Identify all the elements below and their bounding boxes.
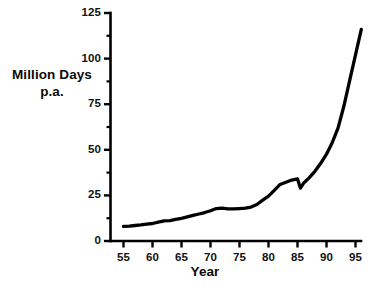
x-axis-tick-label: 60 bbox=[137, 252, 169, 264]
y-axis-title-line-1: Million Days bbox=[2, 66, 102, 83]
chart-plot-area bbox=[0, 0, 371, 291]
y-axis-tick-label: 0 bbox=[60, 235, 101, 247]
y-axis-tick-label: 125 bbox=[60, 7, 101, 19]
x-axis-tick-label: 65 bbox=[166, 252, 198, 264]
x-axis-tick-label: 85 bbox=[282, 252, 314, 264]
x-axis-tick-label: 75 bbox=[224, 252, 256, 264]
x-axis-tick-label: 80 bbox=[253, 252, 285, 264]
y-axis-tick-label: 50 bbox=[60, 144, 101, 156]
axes-group bbox=[111, 13, 362, 241]
x-axis-tick-label: 95 bbox=[340, 252, 371, 264]
data-series-line bbox=[124, 29, 362, 226]
y-axis-title-line-2: p.a. bbox=[2, 83, 102, 100]
y-axis-title: Million Days p.a. bbox=[2, 66, 102, 101]
x-axis-tick-label: 55 bbox=[108, 252, 140, 264]
x-axis-tick-label: 70 bbox=[195, 252, 227, 264]
chart-container: 0255075100125 556065707580859095 Million… bbox=[0, 0, 371, 291]
x-axis-title: Year bbox=[150, 264, 260, 279]
y-axis-tick-label: 25 bbox=[60, 189, 101, 201]
x-axis-tick-label: 90 bbox=[311, 252, 343, 264]
y-axis-tick-label: 100 bbox=[60, 53, 101, 65]
